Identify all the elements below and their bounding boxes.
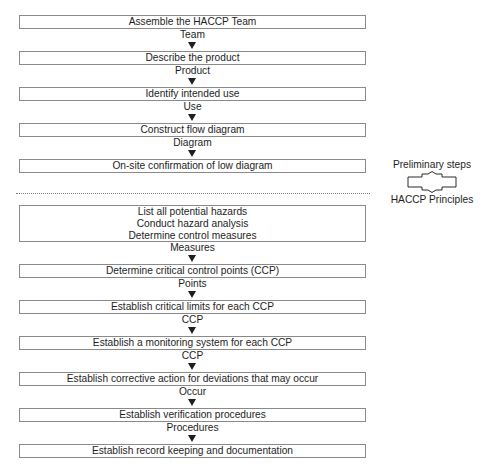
principle-record-keeping: Establish record keeping and documentati… <box>19 444 366 458</box>
connector-label: Use <box>19 101 366 113</box>
legend-haccp-principles: HACCP Principles <box>390 194 474 206</box>
principle-line: Determine control measures <box>20 230 365 242</box>
section-divider <box>16 193 370 194</box>
connector-label: Team <box>19 29 366 41</box>
arrow-down-icon <box>188 327 196 334</box>
arrow-down-icon <box>188 435 196 442</box>
connector-label: Procedures <box>19 422 366 434</box>
principle-line: Determine critical control points (CCP) <box>20 265 365 277</box>
step-label: Assemble the HACCP Team <box>20 16 365 28</box>
principle-verification: Establish verification procedures <box>19 408 366 422</box>
step-label: Identify intended use <box>20 88 365 100</box>
arrow-down-icon <box>188 399 196 406</box>
step-assemble-team: Assemble the HACCP Team <box>19 15 366 29</box>
arrow-down-icon <box>188 42 196 49</box>
connector-label: Diagram <box>19 137 366 149</box>
principle-critical-limits: Establish critical limits for each CCP <box>19 300 366 314</box>
principle-line: List all potential hazards <box>20 206 365 218</box>
arrow-down-icon <box>188 363 196 370</box>
principle-line: Establish a monitoring system for each C… <box>20 337 365 349</box>
connector-label: Product <box>19 65 366 77</box>
principle-monitoring-system: Establish a monitoring system for each C… <box>19 336 366 350</box>
step-onsite-confirmation: On-site confirmation of low diagram <box>19 159 366 173</box>
arrow-down-icon <box>188 150 196 157</box>
arrow-down-icon <box>188 114 196 121</box>
connector-label: Points <box>19 278 366 290</box>
up-down-block-arrow-icon <box>406 171 458 193</box>
arrow-down-icon <box>188 78 196 85</box>
step-construct-flow-diagram: Construct flow diagram <box>19 123 366 137</box>
principle-line: Establish critical limits for each CCP <box>20 301 365 313</box>
step-label: Construct flow diagram <box>20 124 365 136</box>
principle-determine-ccp: Determine critical control points (CCP) <box>19 264 366 278</box>
principle-corrective-action: Establish corrective action for deviatio… <box>19 372 366 386</box>
step-label: Describe the product <box>20 52 365 64</box>
principle-line: Establish corrective action for deviatio… <box>20 373 365 385</box>
step-identify-use: Identify intended use <box>19 87 366 101</box>
connector-label: Occur <box>19 386 366 398</box>
legend-preliminary-steps: Preliminary steps <box>392 159 472 171</box>
principle-line: Conduct hazard analysis <box>20 218 365 230</box>
principle-line: Establish record keeping and documentati… <box>20 445 365 457</box>
connector-label: Measures <box>19 242 366 254</box>
principle-line: Establish verification procedures <box>20 409 365 421</box>
connector-label: CCP <box>19 350 366 362</box>
step-describe-product: Describe the product <box>19 51 366 65</box>
arrow-down-icon <box>188 291 196 298</box>
principle-hazard-analysis: List all potential hazards Conduct hazar… <box>19 205 366 242</box>
connector-label: CCP <box>19 314 366 326</box>
step-label: On-site confirmation of low diagram <box>20 160 365 172</box>
arrow-down-icon <box>188 255 196 262</box>
